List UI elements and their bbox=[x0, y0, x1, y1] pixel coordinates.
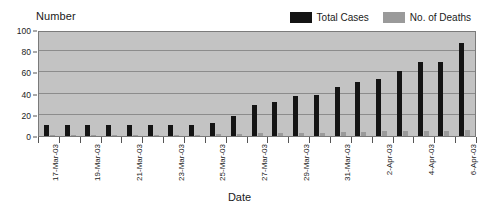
gridline bbox=[39, 29, 475, 30]
x-tick-label: 31-Mar-03 bbox=[343, 144, 352, 181]
x-tick-mark bbox=[393, 137, 394, 143]
y-axis-title: Number bbox=[36, 10, 76, 22]
bar-deaths bbox=[216, 134, 221, 136]
x-tick-mark bbox=[288, 137, 289, 143]
bar-total-cases bbox=[189, 125, 194, 136]
legend-swatch-deaths bbox=[383, 12, 405, 23]
bar-deaths bbox=[71, 135, 76, 136]
bar-deaths bbox=[133, 135, 138, 136]
bar-total-cases bbox=[314, 95, 319, 136]
chart-container: Number Total Cases No. of Deaths 0204060… bbox=[0, 0, 479, 213]
bar-group bbox=[247, 32, 268, 136]
bar-group bbox=[226, 32, 247, 136]
bar-deaths bbox=[112, 135, 117, 136]
x-tick-mark bbox=[226, 137, 227, 143]
bar-total-cases bbox=[148, 125, 153, 136]
y-tick-mark bbox=[33, 73, 37, 74]
x-tick-label: 4-Apr-03 bbox=[427, 144, 436, 175]
y-tick-mark bbox=[33, 52, 37, 53]
bar-series-group bbox=[39, 32, 475, 136]
bar-group bbox=[39, 32, 60, 136]
bar-deaths bbox=[444, 131, 449, 136]
bar-group bbox=[413, 32, 434, 136]
x-tick-label: 6-Apr-03 bbox=[469, 144, 478, 175]
bar-deaths bbox=[320, 133, 325, 136]
bar-group bbox=[330, 32, 351, 136]
bar-group bbox=[164, 32, 185, 136]
x-tick-mark bbox=[163, 137, 164, 143]
bar-total-cases bbox=[44, 125, 49, 136]
bar-deaths bbox=[50, 135, 55, 136]
bar-total-cases bbox=[168, 125, 173, 136]
x-tick-label: 27-Mar-03 bbox=[260, 144, 269, 181]
x-tick-mark bbox=[184, 137, 185, 143]
x-tick-mark bbox=[372, 137, 373, 143]
x-tick-mark bbox=[59, 137, 60, 143]
x-tick-label: 25-Mar-03 bbox=[218, 144, 227, 181]
bar-deaths bbox=[258, 133, 263, 136]
y-tick-mark bbox=[33, 31, 37, 32]
x-tick-mark bbox=[142, 137, 143, 143]
bar-total-cases bbox=[335, 87, 340, 136]
legend-label-deaths: No. of Deaths bbox=[410, 12, 471, 23]
bar-total-cases bbox=[438, 62, 443, 136]
legend-item-total-cases: Total Cases bbox=[290, 12, 369, 23]
bar-group bbox=[101, 32, 122, 136]
bar-total-cases bbox=[272, 102, 277, 136]
bar-group bbox=[434, 32, 455, 136]
bar-deaths bbox=[341, 132, 346, 136]
bar-deaths bbox=[195, 135, 200, 136]
bar-group bbox=[288, 32, 309, 136]
bar-total-cases bbox=[106, 125, 111, 136]
bar-deaths bbox=[91, 135, 96, 136]
bar-deaths bbox=[299, 133, 304, 136]
bar-group bbox=[371, 32, 392, 136]
bar-total-cases bbox=[459, 43, 464, 136]
legend-item-deaths: No. of Deaths bbox=[383, 12, 471, 23]
x-tick-mark bbox=[121, 137, 122, 143]
bar-total-cases bbox=[85, 125, 90, 136]
bar-group bbox=[350, 32, 371, 136]
bar-group bbox=[267, 32, 288, 136]
chart-legend: Total Cases No. of Deaths bbox=[290, 12, 471, 23]
x-tick-label: 21-Mar-03 bbox=[135, 144, 144, 181]
bar-deaths bbox=[278, 133, 283, 136]
bar-total-cases bbox=[231, 116, 236, 136]
x-axis-title: Date bbox=[0, 191, 479, 203]
x-tick-label: 29-Mar-03 bbox=[302, 144, 311, 181]
bar-group bbox=[122, 32, 143, 136]
x-tick-mark bbox=[247, 137, 248, 143]
bar-total-cases bbox=[418, 62, 423, 136]
bar-deaths bbox=[465, 130, 470, 136]
y-tick-mark bbox=[33, 94, 37, 95]
bar-group bbox=[205, 32, 226, 136]
bar-deaths bbox=[403, 131, 408, 136]
bar-group bbox=[392, 32, 413, 136]
bar-deaths bbox=[154, 135, 159, 136]
y-tick-mark bbox=[33, 115, 37, 116]
bar-total-cases bbox=[376, 79, 381, 136]
bar-total-cases bbox=[65, 125, 70, 136]
x-tick-mark bbox=[351, 137, 352, 143]
x-tick-mark bbox=[80, 137, 81, 143]
bar-group bbox=[143, 32, 164, 136]
x-tick-mark bbox=[38, 137, 39, 143]
bar-deaths bbox=[424, 131, 429, 136]
x-tick-mark bbox=[267, 137, 268, 143]
bar-total-cases bbox=[355, 82, 360, 136]
x-tick-label: 19-Mar-03 bbox=[93, 144, 102, 181]
x-tick-label: 23-Mar-03 bbox=[177, 144, 186, 181]
bar-total-cases bbox=[397, 71, 402, 136]
bar-group bbox=[184, 32, 205, 136]
legend-label-total-cases: Total Cases bbox=[317, 12, 369, 23]
x-tick-mark bbox=[205, 137, 206, 143]
x-tick-label: 17-Mar-03 bbox=[51, 144, 60, 181]
bar-group bbox=[454, 32, 475, 136]
x-tick-mark bbox=[434, 137, 435, 143]
bar-total-cases bbox=[127, 125, 132, 136]
bar-deaths bbox=[237, 134, 242, 136]
x-axis-labels: 17-Mar-0319-Mar-0321-Mar-0323-Mar-0325-M… bbox=[38, 144, 476, 188]
legend-swatch-total-cases bbox=[290, 12, 312, 23]
bar-total-cases bbox=[252, 105, 257, 136]
bar-deaths bbox=[382, 131, 387, 136]
